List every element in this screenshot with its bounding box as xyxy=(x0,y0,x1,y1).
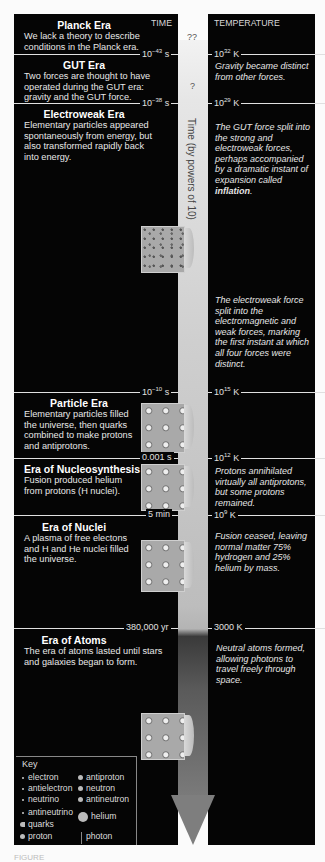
era-title-planck: Planck Era xyxy=(14,19,154,31)
era-desc-electroweak: Elementary particles appeared spontaneou… xyxy=(24,120,154,162)
key-quarks: quarks xyxy=(20,819,54,829)
nucleosynthesis-image xyxy=(141,464,185,511)
temp-tick-2: 1029 K xyxy=(212,97,241,108)
nuclei-era-image xyxy=(141,540,185,592)
electron-icon xyxy=(22,777,24,779)
atoms-image-connector xyxy=(184,715,194,756)
temp-tick-6: 3000 K xyxy=(212,622,245,632)
temp-tick-4: 1012 K xyxy=(212,452,241,463)
key-neutrino: neutrino xyxy=(22,794,59,804)
photon-icon xyxy=(81,832,82,844)
gut-unknown-marker: ? xyxy=(190,81,195,91)
nucleosynthesis-image-connector xyxy=(184,466,194,507)
key-antielectron: antielectron xyxy=(22,783,72,793)
particle-image-connector xyxy=(184,405,194,449)
key-photon: photon xyxy=(86,831,112,841)
temp-tick-3: 1015 K xyxy=(212,386,241,397)
era-title-nucleosynthesis: Era of Nucleosynthesis xyxy=(24,463,140,475)
nuclei-image-connector xyxy=(184,542,194,588)
time-header: TIME xyxy=(151,18,172,28)
key-proton: proton xyxy=(20,831,52,841)
era-desc-planck: We lack a theory to describe conditions … xyxy=(24,31,149,52)
time-tick-4: 0.001 s xyxy=(140,452,174,462)
electroweak-particle-image xyxy=(141,226,185,273)
electroweak-image-connector xyxy=(184,228,194,268)
time-tick-3: 10−10 s xyxy=(140,386,171,397)
era-desc-nucleosynthesis: Fusion produced helium from protons (H n… xyxy=(24,475,124,496)
note-fusion-ceased: Fusion ceased, leaving normal matter 75%… xyxy=(215,531,312,573)
era-title-nuclei: Era of Nuclei xyxy=(14,521,134,533)
era-desc-nuclei: A plasma of free electons and H and He n… xyxy=(24,533,134,565)
note-gut-split: The GUT force split into the strong and … xyxy=(215,122,312,196)
era-title-electroweak: Electroweak Era xyxy=(14,108,154,120)
neutrino-icon xyxy=(22,799,24,801)
temp-tick-1: 1032 K xyxy=(212,48,241,59)
key-antiproton: antiproton xyxy=(78,772,124,782)
time-tick-2: 10−38 s xyxy=(140,97,171,108)
era-title-particle: Particle Era xyxy=(14,397,144,409)
quarks-icon xyxy=(20,822,25,827)
temp-tick-5: 109 K xyxy=(212,509,238,520)
note-protons-annihilated: Protons annihilated virtually all antipr… xyxy=(215,466,312,508)
era-title-atoms: Era of Atoms xyxy=(14,634,134,646)
antineutron-icon xyxy=(78,797,83,802)
neutron-icon xyxy=(78,786,83,791)
key-electron: electron xyxy=(22,772,59,782)
planck-unknown-marker: ?? xyxy=(187,32,197,42)
time-tick-1: 10−43 s xyxy=(140,48,171,59)
particle-era-image xyxy=(141,403,185,453)
temperature-header: TEMPERATURE xyxy=(214,18,280,28)
proton-icon xyxy=(20,834,25,839)
key-helium: helium xyxy=(78,811,116,822)
note-electroweak-split: The electroweak force split into the ele… xyxy=(215,295,312,369)
era-desc-gut: Two forces are thought to have operated … xyxy=(24,71,154,103)
antielectron-icon xyxy=(22,788,24,790)
antiproton-icon xyxy=(78,775,83,780)
figure-caption: FIGURE xyxy=(14,853,44,862)
time-axis-label: Time (by powers of 10) xyxy=(186,118,197,220)
time-tick-5: 5 min xyxy=(146,509,172,519)
era-title-gut: GUT Era xyxy=(14,59,154,71)
key-antineutron: antineutron xyxy=(78,794,129,804)
helium-icon xyxy=(78,812,88,822)
key-neutron: neutron xyxy=(78,783,115,793)
note-gravity-distinct: Gravity became distinct from other force… xyxy=(215,61,310,82)
note-neutral-atoms: Neutral atoms formed, allowing photons t… xyxy=(216,643,313,685)
time-tick-6: 380,000 yr xyxy=(124,622,171,632)
key-antineutrino: antineutrino xyxy=(22,807,73,817)
key-title: Key xyxy=(22,759,38,769)
era-desc-particle: Elementary particles filled the universe… xyxy=(24,409,136,451)
antineutrino-icon xyxy=(22,812,24,814)
time-arrowhead xyxy=(171,795,215,845)
atoms-era-image xyxy=(141,713,185,760)
era-desc-atoms: The era of atoms lasted until stars and … xyxy=(24,646,164,667)
